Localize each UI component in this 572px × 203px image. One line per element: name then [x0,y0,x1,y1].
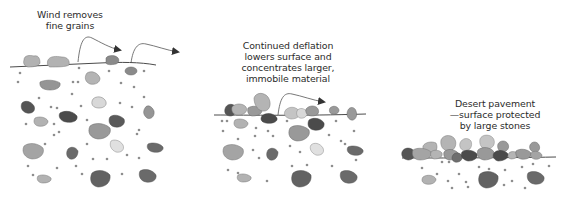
diagram-artwork [0,0,572,203]
desert-pavement-diagram: Wind removes fine grains Continued defla… [0,0,572,203]
panel-1-artwork [10,37,178,187]
panel-3-artwork [402,135,556,189]
wind-arrow-icon [131,44,178,63]
panel-2-artwork [214,93,366,187]
